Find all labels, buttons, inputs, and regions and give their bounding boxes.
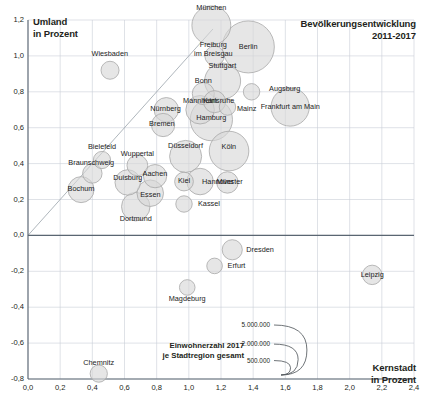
x-tick-label: 1,6: [273, 383, 297, 392]
bubble: [243, 84, 259, 100]
y-tick-label: -0,8: [2, 374, 24, 383]
bubble: [205, 46, 224, 65]
bubble: [90, 365, 107, 382]
bubble: [93, 151, 110, 168]
legend-size-value: 5.000.000: [226, 321, 270, 328]
y-tick-label: 0,2: [2, 195, 24, 204]
bubble: [175, 172, 194, 191]
x-tick-label: 0,4: [80, 383, 104, 392]
y-tick-label: 1,2: [2, 15, 24, 24]
legend-size-value: 500.000: [226, 357, 270, 364]
legend-size-value: 2.000.000: [226, 340, 270, 347]
y-tick-label: -0,6: [2, 338, 24, 347]
bubble: [207, 258, 223, 274]
x-tick-label: 2,2: [370, 383, 394, 392]
x-tick-label: 0,6: [113, 383, 137, 392]
x-tick-label: 0,8: [145, 383, 169, 392]
bubble: [176, 196, 192, 212]
bubble: [151, 113, 174, 136]
bubble: [209, 131, 249, 171]
bubble: [179, 280, 195, 296]
bubbles: [68, 6, 382, 382]
legend-size-bracket: [274, 344, 298, 375]
x-tick-label: 1,8: [306, 383, 330, 392]
x-tick-label: 1,2: [209, 383, 233, 392]
y-tick-label: 1,0: [2, 51, 24, 60]
y-tick-label: 0,0: [2, 230, 24, 239]
bubble: [217, 172, 238, 193]
bubble: [192, 6, 231, 45]
y-tick-label: 0,8: [2, 87, 24, 96]
legend-size-bracket: [274, 361, 291, 375]
bubble: [127, 155, 148, 176]
y-tick-label: 0,6: [2, 123, 24, 132]
bubble: [362, 265, 381, 284]
bubble: [219, 99, 235, 115]
x-tick-label: 0,2: [48, 383, 72, 392]
y-tick-label: -0,4: [2, 302, 24, 311]
y-axis-title: Umland in Prozent: [33, 16, 78, 39]
bubble: [170, 140, 202, 172]
bubble-chart: Umland in Prozent Kernstadt in Prozent B…: [0, 0, 421, 409]
bubble: [271, 88, 309, 126]
bubble: [101, 61, 119, 79]
x-tick-label: 1,4: [241, 383, 265, 392]
x-tick-label: 2,4: [402, 383, 421, 392]
chart-title: Bevölkerungsentwicklung 2011-2017: [301, 18, 416, 42]
x-tick-label: 0,0: [16, 383, 40, 392]
bubble: [222, 240, 242, 260]
x-tick-label: 2,0: [338, 383, 362, 392]
x-tick-label: 1,0: [177, 383, 201, 392]
x-axis-title: Kernstadt in Prozent: [371, 362, 416, 385]
y-tick-label: 0,4: [2, 159, 24, 168]
y-tick-label: -0,2: [2, 266, 24, 275]
legend-size-brackets: [274, 325, 307, 375]
